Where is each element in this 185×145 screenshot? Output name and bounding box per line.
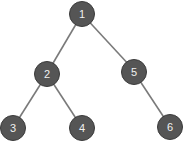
tree-node-3: 3: [1, 116, 26, 141]
node-label: 3: [10, 122, 16, 134]
tree-diagram: 1 2 5 3 4 6: [0, 0, 185, 145]
node-label: 1: [79, 8, 85, 20]
nodes: 1 2 5 3 4 6: [1, 2, 183, 141]
node-label: 2: [44, 68, 50, 80]
tree-node-4: 4: [70, 116, 95, 141]
tree-node-1: 1: [70, 2, 95, 27]
node-label: 6: [167, 121, 173, 133]
tree-node-2: 2: [35, 62, 60, 87]
tree-node-6: 6: [158, 115, 183, 140]
tree-node-5: 5: [122, 60, 147, 85]
node-label: 4: [79, 122, 85, 134]
node-label: 5: [131, 66, 137, 78]
